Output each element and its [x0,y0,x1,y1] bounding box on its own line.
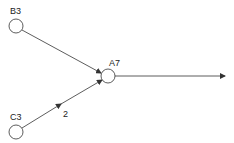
node-c3-label: C3 [10,112,22,122]
node-b3-label: B3 [10,6,21,16]
diagram-canvas: B3 C3 A7 2 [0,0,234,143]
node-a7: A7 [101,58,120,83]
edge-c3-a7-label: 2 [63,109,68,119]
edge-c3-a7 [22,80,102,128]
edge-b3-a7 [22,30,101,73]
node-c3: C3 [9,112,23,139]
node-b3: B3 [9,6,23,33]
node-a7-label: A7 [109,58,120,68]
